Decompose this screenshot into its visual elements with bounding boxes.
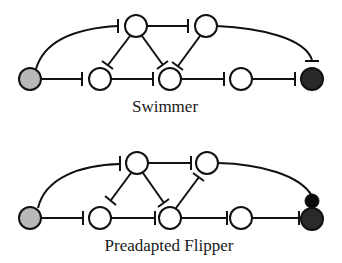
edge-t2-b2 xyxy=(178,36,200,66)
neuron-t2 xyxy=(196,152,218,174)
sensory-node xyxy=(19,207,41,229)
neuron-b2 xyxy=(159,68,181,90)
swimmer-diagram xyxy=(19,15,323,90)
swimmer-label: Swimmer xyxy=(0,97,336,117)
inhibit-bar-b2-t2 xyxy=(193,173,204,181)
edge-b2-t2 xyxy=(176,177,199,208)
neuron-b1 xyxy=(89,207,111,229)
neuron-b1 xyxy=(89,68,111,90)
motor-node xyxy=(301,68,323,90)
neuron-t2 xyxy=(195,15,217,37)
edge-t1-b2 xyxy=(142,36,163,65)
motor-node xyxy=(301,208,323,230)
circuit-diagrams xyxy=(0,0,342,263)
sensory-node xyxy=(19,68,41,90)
inhibit-bar-t1-b1 xyxy=(105,196,116,205)
neuron-t1 xyxy=(125,15,147,37)
edge-t1-b1 xyxy=(108,36,130,65)
neuron-b2 xyxy=(159,207,181,229)
neuron-b3 xyxy=(230,207,252,229)
flipper-diagram xyxy=(19,152,323,230)
inhibit-bar-t1-b2 xyxy=(158,199,169,207)
neuron-b3 xyxy=(230,68,252,90)
motor-extra-node xyxy=(305,194,319,208)
curve-t2-to-motor-extra xyxy=(218,163,312,196)
curve-sensory-to-t1 xyxy=(38,164,120,208)
neuron-t1 xyxy=(126,152,148,174)
flipper-label: Preadapted Flipper xyxy=(0,236,340,256)
edge-t1-b2 xyxy=(143,173,164,203)
curve-t2-to-motor xyxy=(217,26,312,60)
edge-t1-b1 xyxy=(111,173,131,200)
